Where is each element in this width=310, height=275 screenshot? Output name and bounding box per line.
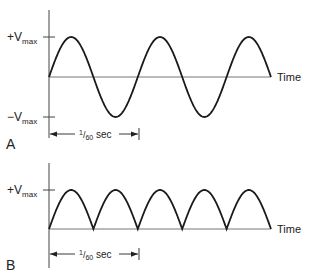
- panel-a-period-label: 1/60 sec: [79, 129, 112, 141]
- panel-a-letter: A: [6, 136, 16, 152]
- panel-b-time-label: Time: [277, 223, 301, 235]
- panel-a-vmax-label: +Vmax: [7, 30, 37, 46]
- waveform-diagram: +Vmax −Vmax Time A 1/60 sec +Vmax Time B…: [0, 0, 310, 275]
- panel-b-vmax-label: +Vmax: [7, 183, 37, 199]
- panel-b-period-label: 1/60 sec: [79, 249, 112, 261]
- panel-b: +Vmax Time B 1/60 sec: [6, 163, 301, 273]
- panel-a-neg-vmax-label: −Vmax: [7, 110, 37, 126]
- panel-b-letter: B: [6, 257, 15, 273]
- panel-b-rectified-wave: [49, 190, 271, 229]
- panel-a: +Vmax −Vmax Time A 1/60 sec: [6, 10, 301, 152]
- panel-a-time-label: Time: [277, 71, 301, 83]
